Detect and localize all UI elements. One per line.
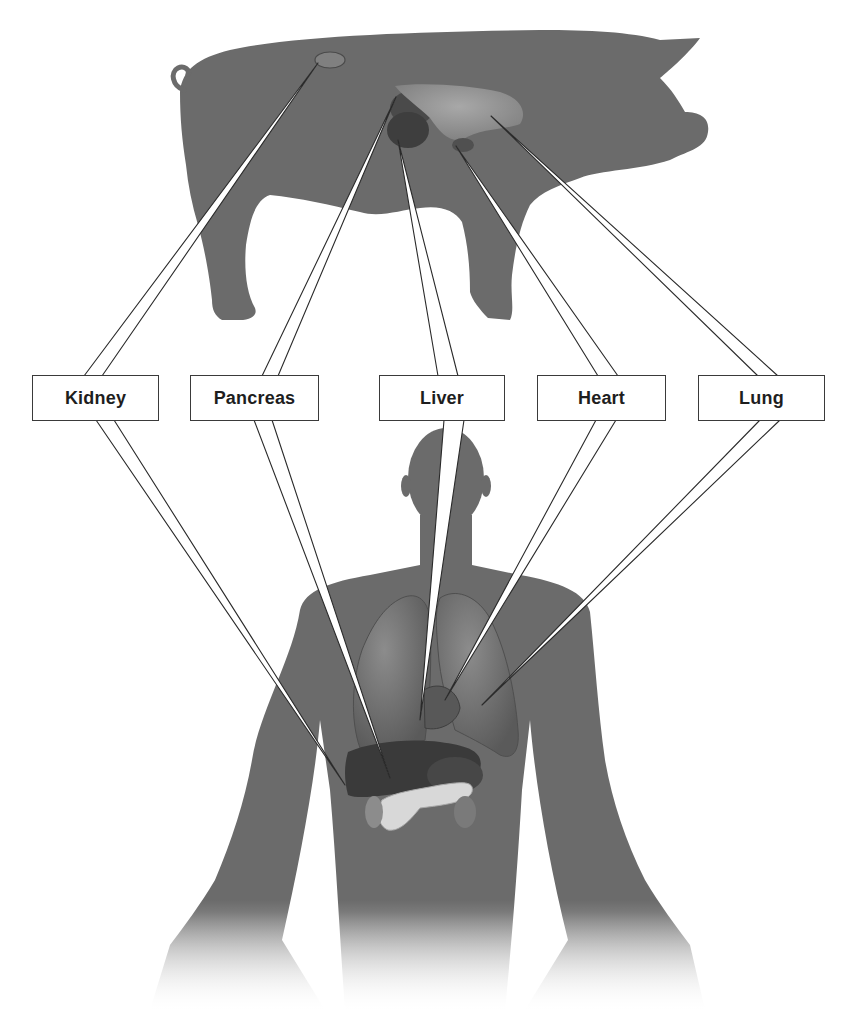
- diagram-canvas: [0, 0, 852, 1010]
- label-pancreas: Pancreas: [190, 375, 319, 421]
- pig-heart: [452, 138, 474, 152]
- label-pancreas-text: Pancreas: [214, 388, 296, 409]
- organ-correspondence-diagram: Kidney Pancreas Liver Heart Lung: [0, 0, 852, 1010]
- label-kidney-text: Kidney: [65, 388, 126, 409]
- label-liver: Liver: [379, 375, 505, 421]
- pig-kidney: [315, 52, 345, 68]
- label-kidney: Kidney: [32, 375, 159, 421]
- label-lung-text: Lung: [739, 388, 784, 409]
- pig-silhouette: [173, 30, 708, 320]
- label-lung: Lung: [698, 375, 825, 421]
- label-heart: Heart: [537, 375, 666, 421]
- label-heart-text: Heart: [578, 388, 625, 409]
- label-liver-text: Liver: [420, 388, 464, 409]
